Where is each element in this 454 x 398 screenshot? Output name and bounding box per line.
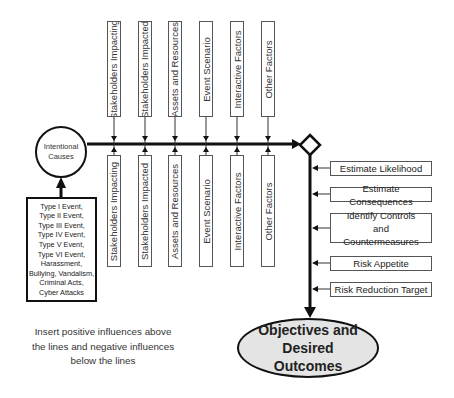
factor-label: Assets and Resources [170,21,181,116]
cause-item: Type VI Event, [38,250,85,260]
cause-item: Type IV Event, [38,230,85,240]
step-risk-reduction-target: Risk Reduction Target [330,282,432,297]
step-label: Estimate Consequences [331,182,431,208]
cause-item: Type I Event, [40,202,83,212]
cause-item: Harassment, [41,259,82,269]
intentional-causes-node: Intentional Causes [35,126,87,178]
negative-factor-box: Other Factors [261,155,275,267]
factor-label: Other Factors [263,40,274,98]
factor-label: Stakeholders Impacted [140,21,151,117]
cause-item: Type II Event, [39,211,84,221]
outcome-label: Objectives and Desired Outcomes [239,321,377,375]
intentional-causes-label: Intentional Causes [37,142,85,162]
factor-label: Event Scenario [201,37,212,101]
positive-factor-box: Stakeholders Impacting [107,21,121,117]
step-label: Estimate Likelihood [340,162,422,175]
negative-factor-box: Interactive Factors [230,155,244,267]
step-label: Risk Appetite [353,257,408,270]
instruction-note: Insert positive influences above the lin… [28,325,178,369]
step-risk-appetite: Risk Appetite [330,256,432,271]
factor-label: Interactive Factors [232,172,243,250]
factor-label: Stakeholders Impacted [140,162,151,259]
factor-label: Stakeholders Impacting [109,21,120,117]
cause-item: Bullying, Vandalism, [29,269,94,279]
factor-label: Event Scenario [201,179,212,243]
positive-factor-box: Interactive Factors [230,21,244,117]
negative-factor-box: Stakeholders Impacted [138,155,152,267]
cause-item: Type III Event, [38,221,85,231]
positive-factor-box: Other Factors [261,21,275,117]
step-identify-controls: Identify Controls and Countermeasures [330,213,432,243]
negative-factor-box: Assets and Resources [168,155,182,267]
cause-item: Criminal Acts, [39,278,84,288]
factor-label: Assets and Resources [170,163,181,258]
cause-item: Cyber Attacks [39,288,84,298]
negative-factor-box: Event Scenario [199,155,213,267]
factor-label: Interactive Factors [232,30,243,108]
factor-label: Stakeholders Impacting [109,161,120,260]
positive-factor-box: Stakeholders Impacted [138,21,152,117]
cause-types-box: Type I Event, Type II Event, Type III Ev… [26,197,97,302]
objectives-outcomes-node: Objectives and Desired Outcomes [237,318,379,378]
positive-factor-box: Event Scenario [199,21,213,117]
factor-label: Other Factors [263,182,274,240]
step-label: Identify Controls and Countermeasures [343,209,419,248]
cause-item: Type V Event, [39,240,84,250]
step-estimate-likelihood: Estimate Likelihood [330,161,432,176]
positive-factor-box: Assets and Resources [168,21,182,117]
step-label: Risk Reduction Target [335,283,428,296]
step-estimate-consequences: Estimate Consequences [330,187,432,202]
negative-factor-box: Stakeholders Impacting [107,155,121,267]
